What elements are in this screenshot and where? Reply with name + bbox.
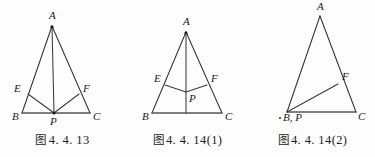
caption-number: 4. 4. 14(2) <box>291 133 347 147</box>
segment-EP <box>165 85 186 92</box>
figure-panel-4-4-13: A B C P E F 图4. 4. 13 <box>0 0 125 157</box>
point-label-E: E <box>13 82 21 94</box>
point-label-B: B <box>142 110 149 122</box>
figure-caption-4-4-13: 图4. 4. 13 <box>0 131 125 148</box>
figure-panel-4-4-14-1: A B C P E F 图4. 4. 14(1) <box>125 0 250 157</box>
point-label-P: P <box>49 115 57 127</box>
point-label-F: F <box>210 72 218 84</box>
point-label-F: F <box>82 82 90 94</box>
vertex-dot-A <box>50 25 53 28</box>
caption-cn-char: 图 <box>153 133 166 147</box>
point-label-A: A <box>182 15 190 27</box>
figure-drawing-4-4-14-1: A B C P E F <box>125 0 250 130</box>
point-label-C: C <box>225 110 233 122</box>
point-label-B-P: B, P <box>283 111 302 123</box>
point-label-F: F <box>341 70 349 82</box>
point-label-P: P <box>188 92 196 104</box>
figure-caption-4-4-14-2: 图4. 4. 14(2) <box>250 131 375 148</box>
segment-AP <box>52 26 54 113</box>
figure-drawing-4-4-14-2: A B, P C F <box>250 0 375 130</box>
segment-AB <box>287 16 320 112</box>
caption-number: 4. 4. 14(1) <box>166 133 222 147</box>
point-label-E: E <box>153 72 161 84</box>
figure-board: A B C P E F 图4. 4. 13 A B C P E F <box>0 0 375 157</box>
caption-cn-char: 图 <box>278 133 291 147</box>
vertex-dot-A <box>184 31 187 34</box>
point-label-A: A <box>48 9 56 21</box>
figure-drawing-4-4-13: A B C P E F <box>0 0 125 130</box>
caption-number: 4. 4. 13 <box>49 133 90 147</box>
marker-dot-left <box>279 117 281 119</box>
point-label-C: C <box>93 110 101 122</box>
figure-caption-4-4-14-1: 图4. 4. 14(1) <box>125 131 250 148</box>
segment-FP <box>54 94 79 113</box>
point-label-A: A <box>316 0 324 12</box>
segment-AC <box>320 16 356 112</box>
point-label-B: B <box>12 110 19 122</box>
figure-panel-4-4-14-2: A B, P C F 图4. 4. 14(2) <box>250 0 375 157</box>
segment-EP <box>28 94 54 113</box>
segment-FP <box>186 85 207 92</box>
point-label-C: C <box>358 110 366 122</box>
caption-cn-char: 图 <box>35 133 48 147</box>
